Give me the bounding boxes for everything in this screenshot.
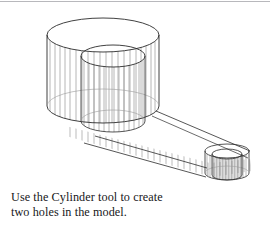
top-divider: [0, 1, 270, 2]
large-hole-outline: [81, 45, 145, 132]
caption-line-2: two holes in the model.: [11, 205, 261, 220]
cad-figure: [0, 3, 270, 189]
caption-line-1: Use the Cylinder tool to create: [11, 190, 261, 205]
figure-page: Use the Cylinder tool to create two hole…: [0, 0, 270, 233]
wireframe-drawing: [0, 3, 270, 189]
large-cylinder-outline: [47, 18, 159, 123]
figure-caption: Use the Cylinder tool to create two hole…: [11, 190, 261, 220]
